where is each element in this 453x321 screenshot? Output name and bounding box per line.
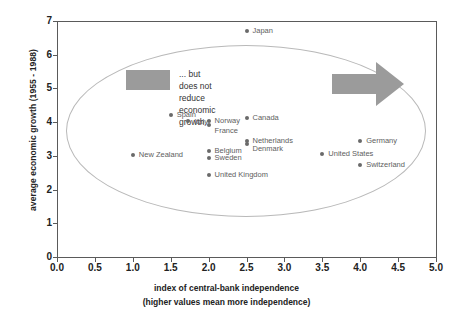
data-point	[169, 113, 173, 117]
x-tick-mark	[398, 258, 399, 262]
x-axis-title: index of central-bank independence	[0, 283, 453, 293]
data-point-label: Switzerland	[366, 160, 405, 169]
x-tick-label: 4.0	[342, 262, 378, 273]
data-point	[207, 156, 211, 160]
y-tick-label: 4	[34, 116, 52, 127]
x-tick-label: 2.5	[229, 262, 265, 273]
x-tick-label: 2.0	[191, 262, 227, 273]
data-point-label: Denmark	[253, 144, 283, 153]
data-point-label: New Zealand	[139, 150, 183, 159]
data-point-label: Spain	[177, 110, 196, 119]
data-point-label: Sweden	[215, 153, 242, 162]
scatter-chart: average economic growth (1955 - 1988) 01…	[0, 0, 453, 321]
x-tick-label: 3.0	[266, 262, 302, 273]
right-arrow-icon	[332, 62, 404, 110]
data-point-label: Norway	[215, 116, 240, 125]
data-point-label: Canada	[253, 113, 279, 122]
y-tick-label: 7	[34, 15, 52, 26]
x-tick-mark	[360, 258, 361, 262]
x-tick-mark	[247, 258, 248, 262]
x-tick-mark	[95, 258, 96, 262]
plot-frame-right	[436, 21, 437, 257]
data-point-label: United Kingdom	[215, 170, 268, 179]
x-tick-label: 4.5	[380, 262, 416, 273]
data-point	[358, 139, 362, 143]
plot-frame-top	[57, 21, 436, 22]
y-axis-line	[57, 21, 58, 258]
data-point	[245, 29, 249, 33]
x-tick-mark	[133, 258, 134, 262]
x-tick-label: 1.5	[153, 262, 189, 273]
x-tick-label: 3.5	[304, 262, 340, 273]
x-tick-mark	[436, 258, 437, 262]
data-point	[207, 149, 211, 153]
y-tick-mark	[53, 21, 57, 22]
data-point	[131, 153, 135, 157]
x-axis-subtitle: (higher values mean more independence)	[0, 297, 453, 307]
x-tick-mark	[322, 258, 323, 262]
y-tick-mark	[53, 156, 57, 157]
data-point-label: Germany	[366, 136, 397, 145]
y-tick-label: 6	[34, 49, 52, 60]
x-tick-label: 0.0	[39, 262, 75, 273]
y-tick-mark	[53, 190, 57, 191]
data-point-label: Italy	[194, 117, 208, 126]
y-tick-mark	[53, 223, 57, 224]
data-point	[207, 173, 211, 177]
y-tick-label: 3	[34, 150, 52, 161]
y-tick-mark	[53, 88, 57, 89]
x-tick-label: 0.5	[77, 262, 113, 273]
data-point-label: France	[215, 126, 238, 135]
x-tick-label: 5.0	[418, 262, 453, 273]
data-point	[245, 142, 249, 146]
x-tick-label: 1.0	[115, 262, 151, 273]
data-point-label: Japan	[253, 26, 273, 35]
y-tick-mark	[53, 55, 57, 56]
x-tick-mark	[171, 258, 172, 262]
y-tick-label: 2	[34, 184, 52, 195]
data-point-label: United States	[328, 149, 373, 158]
callout-rectangle	[126, 70, 170, 90]
x-tick-mark	[209, 258, 210, 262]
x-tick-mark	[284, 258, 285, 262]
y-tick-label: 1	[34, 217, 52, 228]
x-tick-mark	[57, 258, 58, 262]
y-tick-label: 5	[34, 82, 52, 93]
data-point	[245, 116, 249, 120]
y-tick-label: 0	[34, 251, 52, 262]
y-tick-mark	[53, 122, 57, 123]
data-point	[207, 123, 211, 127]
